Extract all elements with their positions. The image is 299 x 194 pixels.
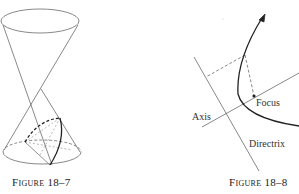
figure-18-7-double-cone (1, 9, 81, 165)
directrix-label: Directrix (249, 138, 285, 149)
focal-distance-line (245, 55, 254, 96)
figure-18-8-caption: Figure 18–8 (229, 176, 288, 188)
parabola-curve (238, 18, 299, 126)
focus-label: Focus (256, 97, 280, 108)
top-ellipse (1, 9, 79, 33)
figures-canvas: Focus Axis Directrix (0, 0, 299, 194)
axis-label: Axis (192, 111, 211, 122)
bottom-ellipse-back (3, 140, 81, 152)
figure-18-7-caption: Figure 18–7 (12, 176, 71, 188)
